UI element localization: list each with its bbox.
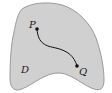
point-p-dot — [35, 27, 39, 31]
region-d-shape — [10, 3, 104, 90]
label-region-d: D — [20, 64, 29, 75]
region-diagram: P Q D — [0, 0, 112, 93]
diagram-canvas: P Q D — [0, 0, 112, 93]
label-q: Q — [79, 66, 87, 77]
label-p: P — [28, 19, 36, 30]
